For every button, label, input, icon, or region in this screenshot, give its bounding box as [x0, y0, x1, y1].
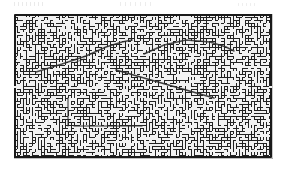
- page: [0, 0, 286, 173]
- maze-figure: [14, 14, 272, 158]
- figure-right-edge-shadow: [272, 14, 273, 159]
- maze-canvas: [14, 14, 272, 158]
- scan-speckle-right: [238, 3, 256, 6]
- scan-speckle-center: [120, 2, 154, 6]
- scan-speckle-left: [14, 2, 44, 6]
- figure-bottom-edge-shadow: [14, 158, 273, 159]
